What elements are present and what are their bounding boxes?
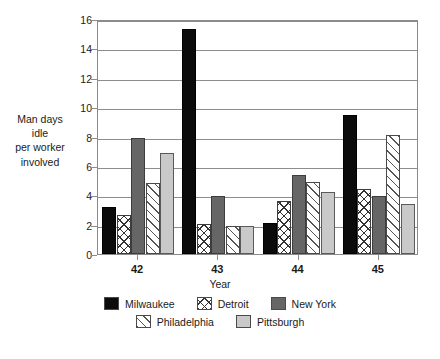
bar-pittsburgh-45[interactable] [401, 204, 415, 254]
y-tick-label-10: 10 [62, 103, 92, 113]
x-tick-label-45: 45 [358, 263, 398, 275]
y-tick-mark-0 [91, 255, 97, 256]
y-tick-label-6: 6 [62, 162, 92, 172]
legend-row-2: PhiladelphiaPittsburgh [0, 315, 440, 328]
bar-milwaukee-45[interactable] [343, 115, 357, 254]
y-tick-label-2: 2 [62, 221, 92, 231]
legend-label-philadelphia: Philadelphia [157, 316, 214, 328]
bar-pittsburgh-42[interactable] [160, 153, 174, 254]
bar-new-york-44[interactable] [292, 175, 306, 254]
bar-philadelphia-42[interactable] [146, 183, 160, 254]
x-tick-label-42: 42 [117, 263, 157, 275]
legend-label-milwaukee: Milwaukee [125, 298, 175, 310]
legend-swatch-new-york-icon [271, 297, 286, 310]
bar-philadelphia-43[interactable] [226, 226, 240, 254]
legend-item-detroit[interactable]: Detroit [197, 297, 249, 310]
bar-new-york-42[interactable] [131, 138, 145, 254]
y-tick-label-16: 16 [62, 15, 92, 25]
bar-milwaukee-44[interactable] [263, 223, 277, 254]
bar-group-44 [263, 21, 335, 254]
y-tick-label-12: 12 [62, 74, 92, 84]
y-axis-label-line-1: Man days [2, 112, 78, 126]
y-tick-label-0: 0 [62, 250, 92, 260]
legend-label-new-york: New York [292, 298, 336, 310]
legend-label-detroit: Detroit [218, 298, 249, 310]
bar-detroit-44[interactable] [277, 201, 291, 254]
legend-item-philadelphia[interactable]: Philadelphia [136, 315, 214, 328]
x-tick-mark-42 [137, 255, 138, 260]
y-tick-label-4: 4 [62, 191, 92, 201]
bar-group-45 [343, 21, 415, 254]
y-axis-label-line-3: per worker [2, 140, 78, 154]
x-tick-mark-43 [217, 255, 218, 260]
legend-label-pittsburgh: Pittsburgh [257, 316, 304, 328]
x-tick-mark-45 [378, 255, 379, 260]
bar-detroit-42[interactable] [117, 215, 131, 254]
legend-swatch-detroit-icon [197, 297, 212, 310]
y-tick-label-8: 8 [62, 133, 92, 143]
chart-legend: MilwaukeeDetroitNew York PhiladelphiaPit… [0, 297, 440, 333]
x-tick-mark-44 [298, 255, 299, 260]
legend-row-1: MilwaukeeDetroitNew York [0, 297, 440, 310]
bar-philadelphia-45[interactable] [386, 135, 400, 254]
bar-pittsburgh-43[interactable] [240, 226, 254, 254]
legend-swatch-milwaukee-icon [104, 297, 119, 310]
bar-new-york-43[interactable] [211, 196, 225, 254]
bar-detroit-45[interactable] [357, 189, 371, 254]
legend-swatch-pittsburgh-icon [236, 315, 251, 328]
bar-milwaukee-42[interactable] [102, 207, 116, 254]
bar-group-43 [182, 21, 254, 254]
bar-group-42 [102, 21, 174, 254]
bar-detroit-43[interactable] [197, 224, 211, 254]
x-tick-label-44: 44 [278, 263, 318, 275]
legend-item-pittsburgh[interactable]: Pittsburgh [236, 315, 304, 328]
legend-swatch-philadelphia-icon [136, 315, 151, 328]
bar-philadelphia-44[interactable] [306, 182, 320, 254]
bar-pittsburgh-44[interactable] [321, 192, 335, 254]
bar-chart-figure: Man days idle per worker involved 024681… [0, 0, 440, 359]
legend-item-milwaukee[interactable]: Milwaukee [104, 297, 175, 310]
legend-item-new-york[interactable]: New York [271, 297, 336, 310]
x-tick-label-43: 43 [197, 263, 237, 275]
bar-new-york-45[interactable] [372, 196, 386, 254]
y-tick-label-14: 14 [62, 44, 92, 54]
bar-milwaukee-43[interactable] [182, 29, 196, 254]
plot-area [97, 20, 418, 255]
x-axis-title: Year [0, 278, 440, 290]
